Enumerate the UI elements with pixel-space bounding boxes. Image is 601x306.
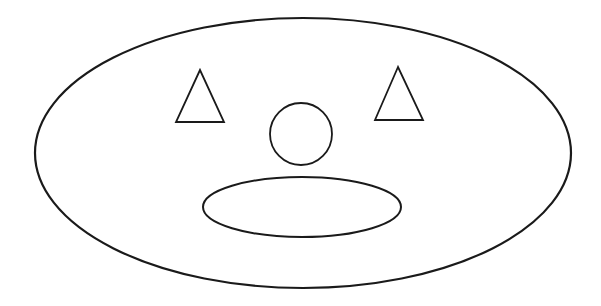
- mouth-ellipse: [203, 177, 401, 237]
- left-eye-triangle: [176, 70, 224, 122]
- face-diagram: [0, 0, 601, 306]
- face-outline-ellipse: [35, 18, 571, 288]
- nose-circle: [270, 103, 332, 165]
- right-eye-triangle: [375, 67, 423, 120]
